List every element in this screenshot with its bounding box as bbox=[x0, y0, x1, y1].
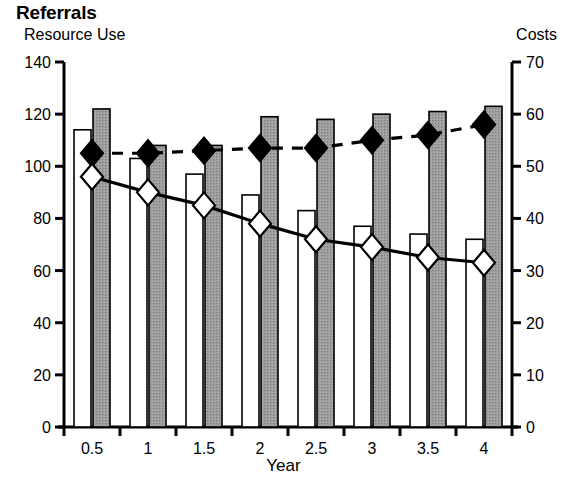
svg-text:70: 70 bbox=[526, 54, 544, 71]
svg-text:3: 3 bbox=[368, 440, 377, 457]
svg-text:50: 50 bbox=[526, 158, 544, 175]
svg-text:20: 20 bbox=[33, 367, 51, 384]
svg-text:60: 60 bbox=[33, 263, 51, 280]
svg-text:2: 2 bbox=[256, 440, 265, 457]
svg-text:0: 0 bbox=[526, 419, 535, 436]
svg-text:60: 60 bbox=[526, 106, 544, 123]
svg-text:0.5: 0.5 bbox=[81, 440, 103, 457]
chart-plot-area: 0204060801001201400102030405060700.511.5… bbox=[0, 0, 567, 485]
svg-text:2.5: 2.5 bbox=[305, 440, 327, 457]
svg-text:40: 40 bbox=[33, 315, 51, 332]
svg-text:140: 140 bbox=[24, 54, 51, 71]
svg-text:120: 120 bbox=[24, 106, 51, 123]
svg-text:1: 1 bbox=[144, 440, 153, 457]
svg-text:100: 100 bbox=[24, 158, 51, 175]
bar bbox=[317, 119, 334, 427]
svg-text:4: 4 bbox=[480, 440, 489, 457]
svg-text:10: 10 bbox=[526, 367, 544, 384]
svg-text:80: 80 bbox=[33, 210, 51, 227]
bar bbox=[205, 145, 222, 427]
svg-text:40: 40 bbox=[526, 210, 544, 227]
svg-text:3.5: 3.5 bbox=[417, 440, 439, 457]
bar bbox=[373, 114, 390, 427]
svg-text:1.5: 1.5 bbox=[193, 440, 215, 457]
bar bbox=[261, 117, 278, 427]
svg-text:30: 30 bbox=[526, 263, 544, 280]
svg-text:20: 20 bbox=[526, 315, 544, 332]
svg-text:0: 0 bbox=[42, 419, 51, 436]
bar bbox=[429, 112, 446, 427]
chart-container: Referrals Resource Use Costs Year 020406… bbox=[0, 0, 567, 485]
